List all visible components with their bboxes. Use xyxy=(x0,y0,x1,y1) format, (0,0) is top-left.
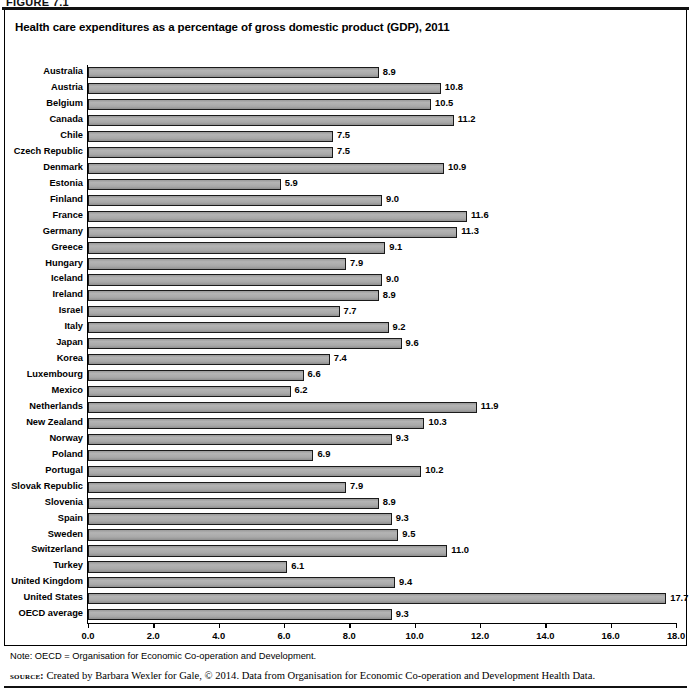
bar-value-label: 6.1 xyxy=(291,560,304,571)
bar-row: United Kingdom9.4 xyxy=(88,575,676,591)
bar-row: United States17.7 xyxy=(88,591,676,607)
bar-row: Mexico6.2 xyxy=(88,384,676,400)
bar-value-label: 9.0 xyxy=(386,193,399,204)
bar xyxy=(88,386,291,397)
source-label: source: xyxy=(10,670,44,681)
x-axis-tick-mark xyxy=(153,623,154,628)
x-axis-tick-label: 8.0 xyxy=(343,630,356,641)
bar-row: Slovenia8.9 xyxy=(88,495,676,511)
category-label: Estonia xyxy=(49,178,83,188)
x-axis-tick-label: 18.0 xyxy=(667,630,685,641)
bar-value-label: 7.5 xyxy=(337,145,350,156)
bar-value-label: 9.6 xyxy=(406,337,419,348)
bar-row: Ireland8.9 xyxy=(88,288,676,304)
bar-value-label: 11.3 xyxy=(461,225,479,236)
category-label: Belgium xyxy=(46,98,83,108)
x-axis-tick-label: 2.0 xyxy=(147,630,160,641)
category-label: Canada xyxy=(49,114,83,124)
bar-row: Korea7.4 xyxy=(88,352,676,368)
bar-value-label: 10.5 xyxy=(435,97,453,108)
x-axis-tick-mark xyxy=(88,623,89,628)
category-label: Netherlands xyxy=(29,401,83,411)
bar xyxy=(88,322,389,333)
bar-value-label: 7.4 xyxy=(334,352,347,363)
bar-row: France11.6 xyxy=(88,208,676,224)
bar-row: Netherlands11.9 xyxy=(88,400,676,416)
bar xyxy=(88,545,447,556)
bar xyxy=(88,450,313,461)
bar xyxy=(88,306,340,317)
bar xyxy=(88,593,666,604)
chart-note: Note: OECD = Organisation for Economic C… xyxy=(10,651,316,661)
bar-value-label: 7.7 xyxy=(344,305,357,316)
category-label: United States xyxy=(24,592,83,602)
category-label: Slovenia xyxy=(45,497,83,507)
bar xyxy=(88,290,379,301)
bar-value-label: 10.9 xyxy=(448,161,466,172)
bar-value-label: 9.1 xyxy=(389,241,402,252)
bar-row: Iceland9.0 xyxy=(88,272,676,288)
bar xyxy=(88,482,346,493)
bar xyxy=(88,67,379,78)
bar xyxy=(88,418,424,429)
bar-row: Slovak Republic7.9 xyxy=(88,480,676,496)
bottom-rule xyxy=(4,686,687,688)
category-label: Israel xyxy=(59,305,83,315)
category-label: OECD average xyxy=(18,608,83,618)
bar-row: Italy9.2 xyxy=(88,320,676,336)
bar xyxy=(88,402,477,413)
bar-row: Greece9.1 xyxy=(88,240,676,256)
bar xyxy=(88,498,379,509)
bar xyxy=(88,163,444,174)
bar-value-label: 7.9 xyxy=(350,257,363,268)
bar xyxy=(88,211,467,222)
x-axis-tick-mark xyxy=(415,623,416,628)
x-axis-tick-label: 10.0 xyxy=(406,630,424,641)
category-label: Korea xyxy=(57,353,83,363)
bar-row: Norway9.3 xyxy=(88,432,676,448)
bar-value-label: 10.3 xyxy=(428,416,446,427)
x-axis-tick-mark xyxy=(349,623,350,628)
category-label: Ireland xyxy=(53,289,83,299)
bar xyxy=(88,227,457,238)
x-axis-tick-mark xyxy=(611,623,612,628)
x-axis-tick-mark xyxy=(676,623,677,628)
bar-row: OECD average9.3 xyxy=(88,607,676,623)
x-axis-tick-label: 14.0 xyxy=(536,630,554,641)
bar-row: Chile7.5 xyxy=(88,129,676,145)
bar xyxy=(88,434,392,445)
bar xyxy=(88,147,333,158)
bar-value-label: 8.9 xyxy=(383,289,396,300)
bar-row: Denmark10.9 xyxy=(88,161,676,177)
bar xyxy=(88,83,441,94)
bar xyxy=(88,609,392,620)
bar xyxy=(88,99,431,110)
bar xyxy=(88,179,281,190)
bar-value-label: 9.0 xyxy=(386,273,399,284)
x-axis-tick-mark xyxy=(219,623,220,628)
bar-chart-plot-area: Australia8.9Austria10.8Belgium10.5Canada… xyxy=(87,65,676,624)
bar xyxy=(88,370,304,381)
bar-row: Turkey6.1 xyxy=(88,559,676,575)
category-label: Slovak Republic xyxy=(11,481,83,491)
category-label: Iceland xyxy=(51,273,83,283)
bar-value-label: 9.3 xyxy=(396,512,409,523)
bar-value-label: 7.9 xyxy=(350,480,363,491)
bar-row: Switzerland11.0 xyxy=(88,543,676,559)
category-label: Mexico xyxy=(51,385,83,395)
bar-value-label: 6.9 xyxy=(317,448,330,459)
bar xyxy=(88,115,454,126)
bar-value-label: 11.6 xyxy=(471,209,489,220)
bar-row: New Zealand10.3 xyxy=(88,416,676,432)
category-label: Portugal xyxy=(45,465,83,475)
bar-value-label: 17.7 xyxy=(670,592,688,603)
bar xyxy=(88,561,287,572)
bar-row: Belgium10.5 xyxy=(88,97,676,113)
x-axis-tick-label: 12.0 xyxy=(471,630,489,641)
category-label: United Kingdom xyxy=(11,576,83,586)
bar-row: Israel7.7 xyxy=(88,304,676,320)
x-axis-tick-label: 0.0 xyxy=(81,630,94,641)
x-axis-tick-mark xyxy=(284,623,285,628)
bar-row: Portugal10.2 xyxy=(88,464,676,480)
source-text: Created by Barbara Wexler for Gale, © 20… xyxy=(46,670,595,681)
